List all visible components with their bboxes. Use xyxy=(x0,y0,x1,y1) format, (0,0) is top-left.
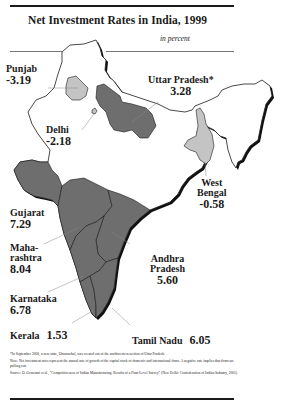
state-value: 6.05 xyxy=(189,333,210,347)
label-west-bengal: West Bengal -0.58 xyxy=(197,178,226,210)
state-value: 1.53 xyxy=(46,328,67,342)
state-name: Tamil Nadu xyxy=(132,335,182,346)
state-value: -0.58 xyxy=(197,198,226,210)
label-karnataka: Karnataka 6.78 xyxy=(10,294,57,316)
leader-kerala xyxy=(72,310,94,323)
bottom-rule xyxy=(10,398,234,400)
label-kerala: Kerala 1.53 xyxy=(10,326,67,342)
label-andhra-pradesh: Andhra Pradesh 5.60 xyxy=(150,254,185,286)
label-uttar-pradesh: Uttar Pradesh* 3.28 xyxy=(148,75,214,97)
leader-karnataka xyxy=(48,276,84,292)
state-value: 5.60 xyxy=(150,274,185,286)
label-punjab: Punjab -3.19 xyxy=(6,64,37,86)
state-value: -3.19 xyxy=(6,74,37,86)
state-value: 6.78 xyxy=(10,304,57,316)
footnote-asterisk: *In September 2000, a new state, Uttaran… xyxy=(10,352,238,357)
label-tamil-nadu: Tamil Nadu 6.05 xyxy=(132,331,210,347)
state-value: 8.04 xyxy=(10,263,42,275)
leader-tamil-nadu xyxy=(112,308,130,325)
footnote-note: Note: Net investment rates represent the… xyxy=(10,359,238,369)
footnote-source: Source: O. Goswami et al., "Competitiven… xyxy=(10,371,238,376)
state-value: 7.29 xyxy=(10,218,44,230)
footnotes: *In September 2000, a new state, Uttaran… xyxy=(10,352,238,377)
state-value: -2.18 xyxy=(46,135,71,147)
label-delhi: Delhi -2.18 xyxy=(46,125,71,147)
state-name: Kerala xyxy=(10,330,39,341)
label-maharashtra: Maha- rashtra 8.04 xyxy=(10,243,42,275)
label-gujarat: Gujarat 7.29 xyxy=(10,208,44,230)
state-value: 3.28 xyxy=(148,85,214,97)
